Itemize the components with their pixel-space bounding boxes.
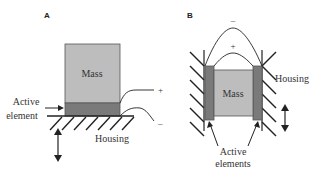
active-element-label-line2: element <box>6 110 38 121</box>
pointer-left <box>210 124 218 146</box>
panel-b-label: B <box>187 11 193 20</box>
wire-positive-a <box>120 90 154 103</box>
active-element-left <box>205 66 214 120</box>
panel-a: A Mass + – Active element Housing <box>6 11 163 162</box>
panel-b: B Mass – + <box>187 11 309 169</box>
pointer-right <box>248 124 257 146</box>
arrow-up-icon <box>281 104 289 111</box>
panel-a-label: A <box>44 11 50 20</box>
arrow-down-icon <box>281 125 289 132</box>
arrowhead-icon <box>207 121 213 128</box>
diagram: A Mass + – Active element Housing <box>0 0 318 178</box>
wire-positive-b <box>214 53 253 66</box>
mass-label-a: Mass <box>81 68 102 79</box>
active-element-right <box>253 66 262 120</box>
arrowhead-icon <box>254 121 260 128</box>
plus-terminal-b: + <box>230 41 235 51</box>
plus-terminal-a: + <box>158 85 163 95</box>
housing-hatching-right <box>262 52 276 136</box>
housing-hatching-left <box>190 52 204 136</box>
arrowhead-icon <box>58 105 64 111</box>
active-elements-label-line2: elements <box>215 158 251 169</box>
housing-label-b: Housing <box>275 73 309 84</box>
housing-hatching-a <box>50 117 134 130</box>
mass-label-b: Mass <box>222 88 243 99</box>
arrow-down-icon <box>54 155 62 162</box>
wire-negative-a <box>120 108 154 121</box>
arrow-up-icon <box>54 128 62 135</box>
active-element-a <box>65 103 120 116</box>
active-elements-label-line1: Active <box>220 146 247 157</box>
housing-label-a: Housing <box>95 133 129 144</box>
minus-terminal-a: – <box>157 118 163 128</box>
active-element-label-line1: Active <box>13 96 40 107</box>
minus-terminal-b: – <box>230 15 236 25</box>
